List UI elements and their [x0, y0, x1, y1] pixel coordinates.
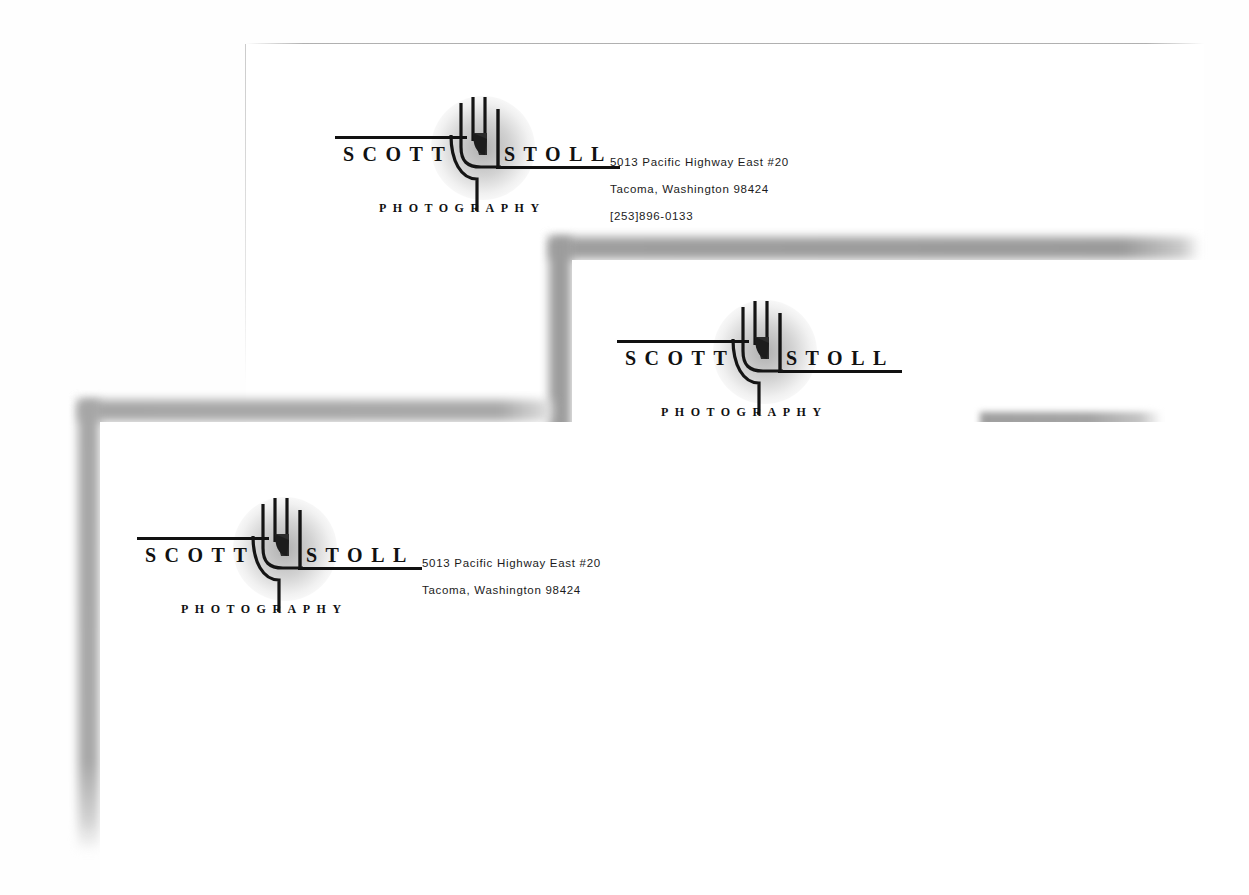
wordmark-first-name: SCOTT: [343, 144, 453, 164]
wordmark-last-name: STOLL: [306, 545, 415, 565]
address-line-city: Tacoma, Washington 98424: [422, 577, 601, 604]
wordmark-first-name: SCOTT: [145, 545, 255, 565]
wordmark-last-name: STOLL: [504, 144, 613, 164]
wordmark-first-name: SCOTT: [625, 348, 735, 368]
address-line-phone: [253]896-0133: [610, 203, 789, 230]
address-line-street: 5013 Pacific Highway East #20: [610, 149, 789, 176]
sheet-front-shadow-left: [78, 400, 99, 852]
address-block: 5013 Pacific Highway East #20 Tacoma, Wa…: [422, 550, 601, 604]
discipline-label: PHOTOGRAPHY: [379, 202, 546, 214]
address-line-city: Tacoma, Washington 98424: [610, 176, 789, 203]
wordmark-last-name: STOLL: [786, 348, 895, 368]
discipline-label: PHOTOGRAPHY: [181, 603, 348, 615]
discipline-label: PHOTOGRAPHY: [661, 406, 828, 418]
letterhead-sheet-front: [100, 422, 1249, 895]
address-block: 5013 Pacific Highway East #20 Tacoma, Wa…: [610, 149, 789, 230]
address-line-street: 5013 Pacific Highway East #20: [422, 550, 601, 577]
stationery-scene: SCOTT STOLL PHOTOGRAPHY 5013 Pacific Hig…: [0, 0, 1249, 895]
sheet-middle-shadow-top: [549, 237, 1201, 259]
sheet-front-shadow-top: [78, 400, 558, 421]
